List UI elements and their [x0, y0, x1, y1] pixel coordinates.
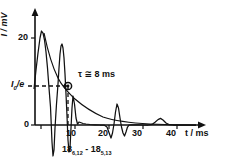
x-tick-label-40: 40 — [166, 129, 176, 138]
caption-term-a-subscript: 6,12 — [72, 150, 83, 156]
y-axis-arrow — [32, 8, 39, 16]
x-axis-title: t / ms — [185, 129, 209, 138]
guide-lines — [28, 86, 68, 125]
figure-container: I / mV 20 0 I0/e 10 20 30 40 t / ms τ ≅ … — [0, 0, 225, 166]
caption-term-b: 18 — [91, 144, 101, 154]
x-tick-label-10: 10 — [66, 129, 76, 138]
y-tick-label-0: 0 — [24, 120, 29, 129]
transition-caption: 186,12 - 185,13 — [62, 145, 111, 156]
i0-over-e-tail: /e — [17, 79, 25, 89]
caption-term-b-subscript: 5,13 — [101, 150, 112, 156]
x-tick-label-30: 30 — [132, 129, 142, 138]
x-tick-label-20: 20 — [98, 129, 108, 138]
tau-annotation: τ ≅ 8 ms — [78, 70, 115, 79]
y-tick-label-20: 20 — [18, 33, 28, 42]
y-axis-title-text: I / mV — [0, 12, 9, 36]
caption-separator: - — [83, 144, 91, 154]
caption-term-a: 18 — [62, 144, 72, 154]
i0-over-e-label: I0/e — [11, 80, 24, 91]
chart-plot — [0, 0, 225, 166]
